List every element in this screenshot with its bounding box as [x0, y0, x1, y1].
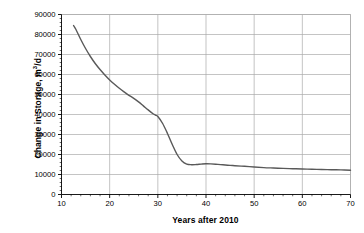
y-axis-title: Change in Storage, m3/d — [34, 23, 43, 193]
x-axis-tick-label: 60 — [287, 200, 317, 208]
x-axis-tick-label: 70 — [336, 200, 364, 208]
y-axis-tick-label: 0 — [12, 191, 56, 199]
y-axis-tick-label: 20000 — [12, 151, 56, 159]
y-axis-tick-label: 10000 — [12, 171, 56, 179]
y-axis-tick-label: 30000 — [12, 131, 56, 139]
x-axis-tick-label: 10 — [47, 200, 77, 208]
y-axis-tick-label: 90000 — [12, 11, 56, 19]
x-axis-title: Years after 2010 — [61, 215, 350, 225]
x-axis-tick-label: 40 — [191, 200, 221, 208]
y-axis-tick-label: 80000 — [12, 31, 56, 39]
x-axis-tick-label: 30 — [143, 200, 173, 208]
chart-container: Change in Storage, m3/d Years after 2010… — [0, 0, 364, 233]
y-axis-tick-label: 40000 — [12, 111, 56, 119]
y-axis-title-suffix: /d — [33, 58, 43, 66]
data-series-line — [74, 26, 351, 171]
y-axis-tick-label: 60000 — [12, 71, 56, 79]
x-axis-tick-label: 20 — [95, 200, 125, 208]
y-axis-tick-label: 70000 — [12, 51, 56, 59]
y-axis-title-exponent: 3 — [32, 66, 38, 69]
x-axis-tick-label: 50 — [239, 200, 269, 208]
y-axis-tick-label: 50000 — [12, 91, 56, 99]
